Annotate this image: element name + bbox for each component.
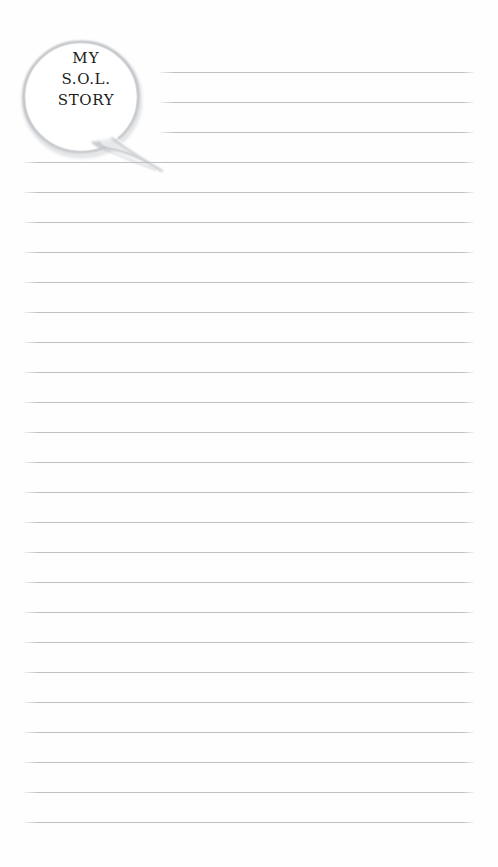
writing-line-1 [160,72,474,73]
writing-line-12 [24,402,474,403]
writing-line-13 [24,432,474,433]
writing-line-5 [24,192,474,193]
writing-line-26 [24,822,474,823]
speech-bubble: MY S.O.L. STORY [16,22,176,168]
writing-line-17 [24,552,474,553]
writing-line-24 [24,762,474,763]
writing-line-16 [24,522,474,523]
worksheet-page: MY S.O.L. STORY [0,0,498,867]
writing-line-23 [24,732,474,733]
writing-line-18 [24,582,474,583]
writing-line-22 [24,702,474,703]
writing-line-20 [24,642,474,643]
writing-line-2 [160,102,474,103]
speech-bubble-text: MY S.O.L. STORY [26,48,146,111]
writing-line-21 [24,672,474,673]
writing-line-7 [24,252,474,253]
writing-line-25 [24,792,474,793]
writing-line-6 [24,222,474,223]
writing-line-3 [160,132,474,133]
bubble-text-line-1: MY [26,48,146,69]
writing-line-10 [24,342,474,343]
writing-line-8 [24,282,474,283]
bubble-text-line-3: STORY [26,90,146,111]
writing-line-14 [24,462,474,463]
writing-line-19 [24,612,474,613]
writing-line-11 [24,372,474,373]
bubble-text-line-2: S.O.L. [26,69,146,90]
writing-line-9 [24,312,474,313]
writing-line-15 [24,492,474,493]
